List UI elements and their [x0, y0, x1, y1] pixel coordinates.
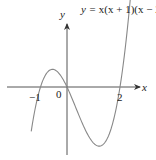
equation-prefix: y =	[80, 3, 99, 15]
cubic-curve	[31, 0, 132, 146]
equation-body: x(x + 1)(x − 2)	[99, 3, 156, 16]
x-tick-neg1: −1	[29, 91, 41, 103]
x-axis-label: x	[141, 81, 147, 93]
equation-label: y = x(x + 1)(x − 2)	[80, 3, 156, 16]
y-axis-label: y	[59, 8, 65, 20]
origin-label: 0	[56, 88, 62, 100]
cubic-graph: y x 0 −1 2 y = x(x + 1)(x − 2)	[0, 0, 156, 160]
x-tick-2: 2	[117, 91, 123, 103]
